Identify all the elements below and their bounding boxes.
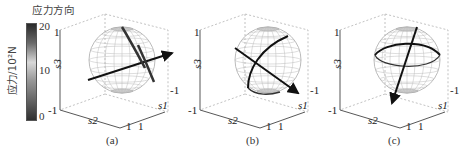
panel-b-y-label: s1 [298, 99, 308, 111]
panel-a-z-bottom: -1 [48, 104, 57, 116]
panel-b-x-label: s2 [228, 114, 238, 126]
caption-b: (b) [246, 134, 259, 146]
colorbar-tick-max: 20 [39, 20, 50, 32]
panel-a-z-top: 1 [54, 26, 60, 38]
panel-a-x-end: 1 [126, 120, 132, 132]
panel-b-x-end: 1 [266, 120, 272, 132]
panel-a-y-label: s1 [158, 99, 168, 111]
panel-b-z-bottom: -1 [188, 104, 197, 116]
panel-b-z-top: 1 [194, 26, 200, 38]
panel-a [50, 0, 180, 134]
panel-b-z-label: s3 [191, 59, 203, 69]
panel-b-y-end: -1 [310, 84, 319, 96]
panel-c-x-end: 1 [406, 120, 412, 132]
caption-a: (a) [106, 134, 118, 146]
panel-c [330, 0, 463, 134]
colorbar-tick-min: 0 [39, 110, 45, 122]
panel-c-z-label: s3 [331, 59, 343, 69]
panel-a-y-start: 1 [138, 120, 144, 132]
panel-b-y-start: 1 [278, 120, 284, 132]
panel-b [190, 0, 320, 134]
panel-c-y-end: -1 [450, 84, 459, 96]
colorbar-label: 应力/10²N [4, 46, 19, 95]
panel-c-z-bottom: -1 [328, 104, 337, 116]
panel-a-z-label: s3 [51, 59, 63, 69]
panel-c-y-start: 1 [418, 120, 424, 132]
colorbar [26, 23, 37, 121]
panel-c-y-label: s1 [438, 99, 448, 111]
panel-c-x-label: s2 [368, 114, 378, 126]
colorbar-tick-mid: 10 [39, 64, 50, 76]
caption-c: (c) [388, 134, 400, 146]
panel-c-z-top: 1 [334, 26, 340, 38]
panel-a-y-end: -1 [170, 84, 179, 96]
panel-a-x-label: s2 [88, 114, 98, 126]
